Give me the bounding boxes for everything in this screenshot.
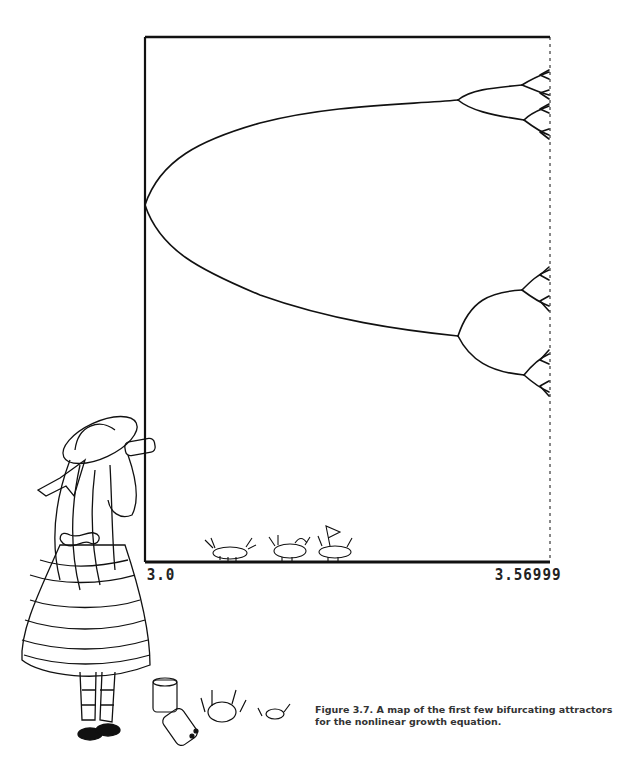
caption-line-2: for the nonlinear growth equation. xyxy=(315,716,615,728)
girl-with-binoculars-illustration xyxy=(22,407,156,740)
bifurcation-curves xyxy=(145,70,549,396)
x-axis-min-label: 3.0 xyxy=(147,566,176,584)
ground-objects-illustration xyxy=(153,678,290,748)
caption-line-1: Figure 3.7. A map of the first few bifur… xyxy=(315,704,615,716)
bifurcation-figure xyxy=(0,0,620,770)
chart-frame xyxy=(145,37,550,562)
x-axis-max-label: 3.56999 xyxy=(495,566,562,584)
figure-caption: Figure 3.7. A map of the first few bifur… xyxy=(315,704,615,728)
caterpillars-illustration xyxy=(205,526,352,561)
